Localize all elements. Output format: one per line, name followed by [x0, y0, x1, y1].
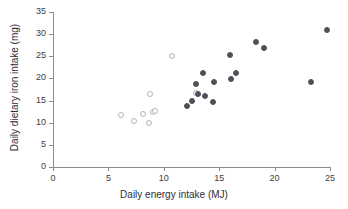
x-axis-line — [53, 167, 331, 168]
data-point-filled — [195, 91, 201, 97]
x-tick-mark — [275, 167, 276, 171]
x-tick-mark — [219, 167, 220, 171]
x-tick-label: 15 — [204, 173, 234, 184]
x-tick-label: 5 — [93, 173, 123, 184]
x-tick-label: 10 — [149, 173, 179, 184]
y-tick-label: 0 — [20, 162, 46, 171]
plot-data-area — [53, 12, 330, 167]
x-tick-mark — [53, 167, 54, 171]
y-tick-label: 25 — [20, 51, 46, 60]
x-tick-label: 25 — [315, 173, 345, 184]
y-tick-mark — [49, 167, 53, 168]
y-tick-label: 10 — [20, 118, 46, 127]
data-point-filled — [261, 45, 267, 51]
x-tick-label: 20 — [260, 173, 290, 184]
y-tick-label: 5 — [20, 140, 46, 149]
data-point-open — [169, 53, 175, 59]
y-axis-title: Daily dietary iron intake (mg) — [9, 8, 20, 168]
x-axis-title: Daily energy intake (MJ) — [0, 189, 348, 200]
x-tick-mark — [108, 167, 109, 171]
y-tick-label: 20 — [20, 73, 46, 82]
y-tick-label: 15 — [20, 96, 46, 105]
y-tick-label: 30 — [20, 29, 46, 38]
data-point-filled — [253, 39, 259, 45]
x-tick-label: 0 — [38, 173, 68, 184]
data-point-filled — [228, 76, 234, 82]
y-tick-label: 35 — [20, 7, 46, 16]
data-point-filled — [324, 27, 330, 33]
data-point-filled — [184, 103, 190, 109]
data-point-filled — [227, 52, 233, 58]
data-point-filled — [202, 93, 208, 99]
data-point-filled — [210, 99, 216, 105]
scatter-plot-figure: Daily energy intake (MJ) Daily dietary i… — [0, 0, 348, 209]
x-tick-mark — [164, 167, 165, 171]
x-tick-mark — [330, 167, 331, 171]
